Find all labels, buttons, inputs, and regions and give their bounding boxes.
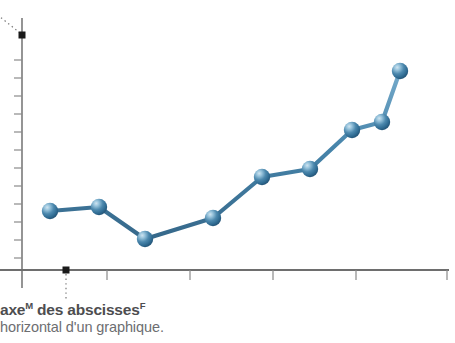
line-graph-x-axis-illustration: axeM des abscissesF horizontal d'un grap…: [0, 0, 455, 343]
x-axis-ticks: [107, 270, 447, 280]
caption: axeM des abscissesF horizontal d'un grap…: [0, 302, 455, 335]
line-chart: [0, 0, 455, 300]
y-axis-callout-dot: [19, 32, 26, 39]
data-point[interactable]: [254, 169, 270, 185]
data-point[interactable]: [392, 63, 408, 79]
caption-term-rest: des abscisses: [33, 301, 140, 318]
data-point[interactable]: [91, 199, 107, 215]
y-axis-ticks: [14, 60, 22, 258]
data-point[interactable]: [374, 114, 390, 130]
caption-definition: horizontal d'un graphique.: [0, 320, 455, 336]
data-point[interactable]: [344, 122, 360, 138]
y-axis-leader-line: [0, 12, 20, 33]
caption-term: axeM des abscissesF: [0, 302, 455, 319]
data-points: [42, 63, 408, 247]
data-point[interactable]: [42, 203, 58, 219]
data-point[interactable]: [205, 210, 221, 226]
data-point[interactable]: [302, 161, 318, 177]
chart-axes: [0, 18, 449, 288]
caption-gender-marker-f: F: [140, 300, 146, 311]
data-point[interactable]: [137, 231, 153, 247]
caption-term-word: axe: [0, 301, 25, 318]
x-axis-callout-dot: [63, 267, 70, 274]
callout-leaders: [0, 12, 70, 300]
caption-gender-marker-m: M: [25, 300, 33, 311]
